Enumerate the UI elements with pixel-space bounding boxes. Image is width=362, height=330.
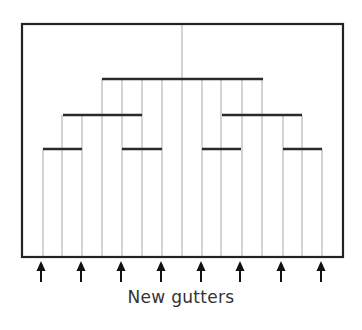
up-arrow-icon xyxy=(77,261,86,282)
gutter-diagram xyxy=(0,0,362,330)
vertical-lines xyxy=(43,24,322,257)
gutter-arrows xyxy=(37,261,326,282)
up-arrow-icon xyxy=(236,261,245,282)
up-arrow-icon xyxy=(37,261,46,282)
up-arrow-icon xyxy=(117,261,126,282)
caption-new-gutters: New gutters xyxy=(0,287,362,307)
up-arrow-icon xyxy=(277,261,286,282)
up-arrow-icon xyxy=(317,261,326,282)
up-arrow-icon xyxy=(157,261,166,282)
up-arrow-icon xyxy=(197,261,206,282)
